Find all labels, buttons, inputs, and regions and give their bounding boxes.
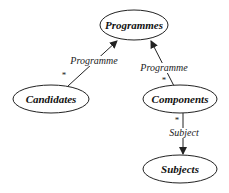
node-programmes-label: Programmes: [105, 20, 163, 31]
multiplicity-components-subject: *: [175, 116, 180, 125]
multiplicity-components-programme: *: [162, 76, 167, 85]
node-subjects-label: Subjects: [161, 164, 199, 175]
edge-label-components-programme: Programme: [139, 63, 188, 73]
edge-label-components-subject: Subject: [168, 128, 199, 138]
edge-label-candidates-programme: Programme: [69, 56, 118, 66]
node-components-label: Components: [152, 94, 209, 105]
node-candidates-label: Candidates: [26, 94, 77, 105]
multiplicity-candidates-programme: *: [62, 71, 67, 80]
